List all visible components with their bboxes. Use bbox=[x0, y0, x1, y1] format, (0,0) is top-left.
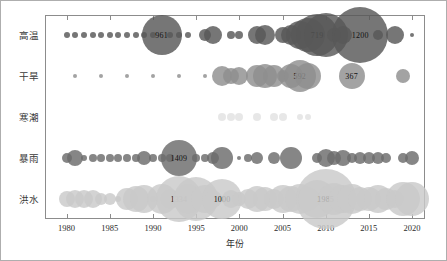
bubble bbox=[268, 152, 280, 164]
bubble bbox=[253, 113, 261, 121]
x-tick-label: 2005 bbox=[274, 223, 291, 233]
bubble bbox=[235, 113, 243, 121]
bubble-chart-figure: 198019851990199520002005201020152020 高温干… bbox=[0, 0, 447, 261]
bubble bbox=[107, 32, 113, 38]
x-tick-mark-top bbox=[412, 16, 413, 20]
bubble bbox=[99, 74, 103, 78]
bubble bbox=[255, 25, 275, 45]
plot-area: 198019851990199520002005201020152020 高温干… bbox=[45, 15, 425, 219]
x-tick-label: 1980 bbox=[58, 223, 75, 233]
bubble bbox=[339, 63, 365, 89]
x-tick-mark-top bbox=[110, 16, 111, 20]
x-tick-mark bbox=[369, 214, 370, 218]
bubble bbox=[386, 26, 404, 44]
x-tick-label: 1985 bbox=[101, 223, 118, 233]
bubble bbox=[176, 32, 182, 38]
bubble bbox=[167, 32, 173, 38]
bubble bbox=[218, 113, 226, 121]
bubble bbox=[297, 114, 303, 120]
bubble bbox=[177, 74, 181, 78]
bubble bbox=[90, 32, 96, 38]
bubble bbox=[396, 69, 410, 83]
bubble bbox=[123, 154, 131, 162]
row-label-寒潮: 寒潮 bbox=[19, 110, 39, 124]
x-axis-label: 年份 bbox=[45, 237, 425, 250]
x-tick-mark-top bbox=[67, 16, 68, 20]
bubble bbox=[64, 32, 70, 38]
x-tick-mark bbox=[283, 214, 284, 218]
bubble bbox=[235, 31, 243, 39]
x-tick-label: 1990 bbox=[144, 223, 161, 233]
bubble bbox=[405, 151, 419, 165]
x-tick-mark bbox=[110, 214, 111, 218]
bubble bbox=[106, 154, 114, 162]
x-tick-label: 2020 bbox=[404, 223, 421, 233]
bubble bbox=[104, 193, 116, 205]
x-tick-label: 1995 bbox=[188, 223, 205, 233]
bubble bbox=[114, 154, 122, 162]
bubble bbox=[97, 154, 105, 162]
bubble bbox=[237, 156, 241, 160]
bubble bbox=[89, 154, 97, 162]
bubble bbox=[373, 30, 383, 40]
x-tick-label: 2000 bbox=[231, 223, 248, 233]
x-tick-mark-top bbox=[239, 16, 240, 20]
row-label-干旱: 干旱 bbox=[19, 69, 39, 83]
bubble bbox=[125, 74, 129, 78]
bubble bbox=[410, 33, 414, 37]
bubble bbox=[81, 155, 87, 161]
bubble bbox=[279, 113, 287, 121]
bubble bbox=[295, 63, 321, 89]
bubble bbox=[227, 31, 235, 39]
bubble bbox=[98, 32, 104, 38]
bubble bbox=[203, 74, 207, 78]
bubble bbox=[192, 154, 200, 162]
row-label-洪水: 洪水 bbox=[19, 192, 39, 206]
bubble bbox=[251, 152, 263, 164]
bubble bbox=[395, 182, 429, 216]
x-tick-mark bbox=[239, 214, 240, 218]
bubble bbox=[115, 32, 121, 38]
bubble bbox=[124, 32, 130, 38]
bubble bbox=[227, 113, 235, 121]
bubble bbox=[204, 26, 222, 44]
x-tick-mark bbox=[67, 214, 68, 218]
bubble bbox=[73, 74, 77, 78]
bubble bbox=[270, 113, 278, 121]
x-tick-label: 2015 bbox=[360, 223, 377, 233]
bubble bbox=[305, 114, 311, 120]
axis-left-spine bbox=[45, 15, 46, 219]
bubble bbox=[72, 32, 78, 38]
bubble bbox=[81, 32, 87, 38]
bubble bbox=[133, 32, 139, 38]
bubble bbox=[211, 147, 233, 169]
x-tick-mark bbox=[153, 214, 154, 218]
axis-bottom-spine bbox=[45, 218, 425, 219]
x-tick-mark-top bbox=[196, 16, 197, 20]
row-label-高温: 高温 bbox=[19, 28, 39, 42]
bubble bbox=[280, 147, 302, 169]
x-tick-mark-top bbox=[283, 16, 284, 20]
bubble bbox=[149, 154, 157, 162]
bubble bbox=[381, 153, 391, 163]
bubble bbox=[151, 74, 155, 78]
row-label-暴雨: 暴雨 bbox=[19, 151, 39, 165]
bubble bbox=[185, 32, 191, 38]
